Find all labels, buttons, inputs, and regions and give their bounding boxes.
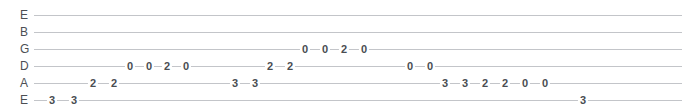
- fret-number: 3: [47, 93, 57, 106]
- fret-number: 0: [144, 59, 154, 72]
- string-label-high-e-string: E: [20, 9, 28, 21]
- string-line-b-string: [34, 32, 682, 33]
- staff-row-high-e-string: E: [0, 6, 686, 23]
- fret-number: 3: [460, 76, 470, 89]
- fret-number: 0: [125, 59, 135, 72]
- guitar-tablature-staff: EBG0020D00202200A2233332200E333: [0, 0, 686, 109]
- staff-row-b-string: B: [0, 23, 686, 40]
- fret-number: 0: [540, 76, 550, 89]
- fret-number: 3: [69, 93, 79, 106]
- string-label-b-string: B: [20, 26, 28, 38]
- staff-row-g-string: G0020: [0, 40, 686, 57]
- fret-number: 0: [181, 59, 191, 72]
- string-label-low-e-string: E: [20, 94, 28, 106]
- fret-number: 2: [339, 42, 349, 55]
- fret-number: 0: [405, 59, 415, 72]
- fret-number: 2: [162, 59, 172, 72]
- fret-number: 0: [520, 76, 530, 89]
- fret-number: 2: [265, 59, 275, 72]
- string-label-a-string: A: [20, 77, 28, 89]
- fret-number: 0: [320, 42, 330, 55]
- staff-row-d-string: D00202200: [0, 57, 686, 74]
- fret-number: 0: [359, 42, 369, 55]
- fret-number: 0: [300, 42, 310, 55]
- fret-number: 3: [578, 93, 588, 106]
- fret-number: 2: [285, 59, 295, 72]
- fret-number: 3: [230, 76, 240, 89]
- fret-number: 3: [440, 76, 450, 89]
- fret-number: 0: [425, 59, 435, 72]
- string-label-g-string: G: [20, 43, 30, 55]
- fret-number: 2: [480, 76, 490, 89]
- fret-number: 2: [88, 76, 98, 89]
- string-label-d-string: D: [20, 60, 29, 72]
- fret-number: 2: [109, 76, 119, 89]
- staff-row-low-e-string: E333: [0, 91, 686, 108]
- string-line-high-e-string: [34, 15, 682, 16]
- staff-row-a-string: A2233332200: [0, 74, 686, 91]
- fret-number: 3: [250, 76, 260, 89]
- string-line-a-string: [34, 83, 682, 84]
- fret-number: 2: [500, 76, 510, 89]
